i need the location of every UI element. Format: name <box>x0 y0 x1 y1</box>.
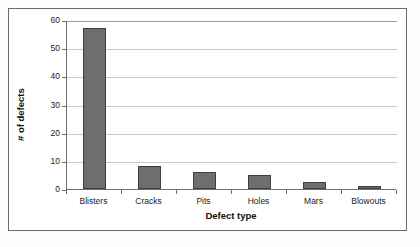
x-axis-label-cracks: Cracks <box>121 196 176 206</box>
plot-area <box>66 21 396 190</box>
bar-mars <box>303 182 326 189</box>
bar-pits <box>193 172 216 189</box>
y-axis-tick-label: 10 <box>20 157 60 166</box>
x-axis-tick-mark <box>66 190 67 194</box>
y-axis-tick-label: 30 <box>20 101 60 110</box>
x-axis-tick-mark <box>121 190 122 194</box>
x-axis-tick-mark <box>286 190 287 194</box>
bar-blisters <box>83 28 106 189</box>
gridline <box>67 49 397 50</box>
bar-cracks <box>138 166 161 189</box>
gridline <box>67 21 397 22</box>
y-axis-tick-label: 40 <box>20 72 60 81</box>
x-axis-tick-mark <box>396 190 397 194</box>
bar-holes <box>248 175 271 189</box>
bar-blowouts <box>358 186 381 189</box>
gridline <box>67 77 397 78</box>
x-axis-label-holes: Holes <box>231 196 286 206</box>
gridline <box>67 134 397 135</box>
x-axis-label-blisters: Blisters <box>66 196 121 206</box>
y-axis-tick-label: 0 <box>20 185 60 194</box>
x-axis-tick-mark <box>341 190 342 194</box>
gridline <box>67 106 397 107</box>
y-axis-tick-label: 60 <box>20 16 60 25</box>
y-axis-tick-label: 50 <box>20 44 60 53</box>
x-axis-label-blowouts: Blowouts <box>341 196 396 206</box>
gridline <box>67 162 397 163</box>
x-axis-label-pits: Pits <box>176 196 231 206</box>
pareto-bar-chart-figure: # of defects 0102030405060 BlistersCrack… <box>0 0 420 247</box>
x-axis-tick-mark <box>231 190 232 194</box>
x-axis-title: Defect type <box>66 210 396 221</box>
x-axis-label-mars: Mars <box>286 196 341 206</box>
x-axis-tick-mark <box>176 190 177 194</box>
y-axis-tick-label: 20 <box>20 129 60 138</box>
